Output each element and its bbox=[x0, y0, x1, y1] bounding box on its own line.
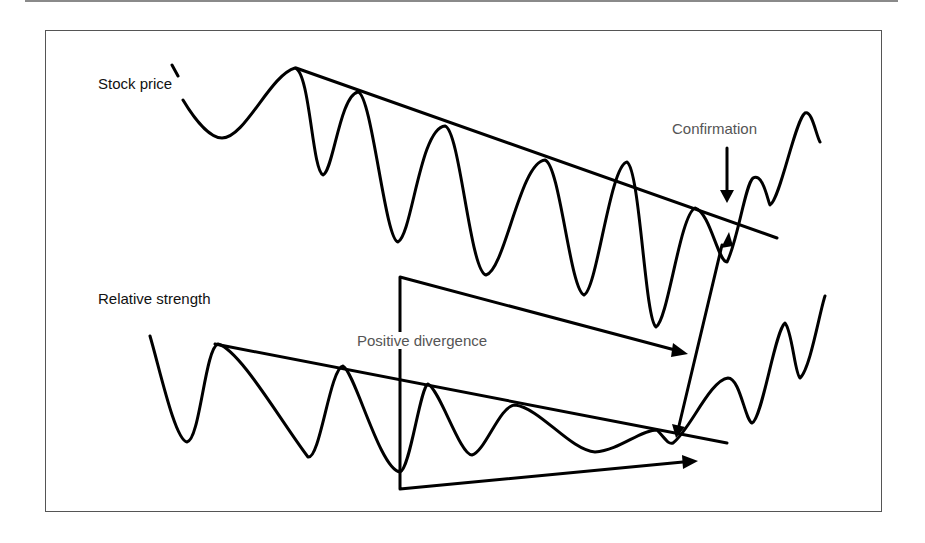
confirmation-label: Confirmation bbox=[672, 120, 757, 137]
relative-strength-trendline bbox=[215, 344, 727, 443]
stock-price-trendline bbox=[296, 68, 777, 238]
confirmation-diagonal-arrow bbox=[678, 245, 722, 430]
relative-strength-label: Relative strength bbox=[98, 290, 211, 307]
stock-price-label: Stock price bbox=[98, 75, 172, 92]
relative-strength-curve bbox=[150, 296, 825, 472]
divergence-bottom-arrow bbox=[400, 462, 683, 489]
arrowhead-divergence-top-icon bbox=[671, 343, 688, 357]
arrowhead-divergence-bottom-icon bbox=[682, 455, 698, 469]
divergence-top-arrow bbox=[400, 277, 675, 470]
stock-price-curve bbox=[172, 65, 820, 327]
positive-divergence-label: Positive divergence bbox=[355, 332, 489, 349]
arrowhead-confirmation-up-icon bbox=[721, 232, 733, 248]
arrowhead-confirmation-down-icon bbox=[720, 190, 734, 203]
